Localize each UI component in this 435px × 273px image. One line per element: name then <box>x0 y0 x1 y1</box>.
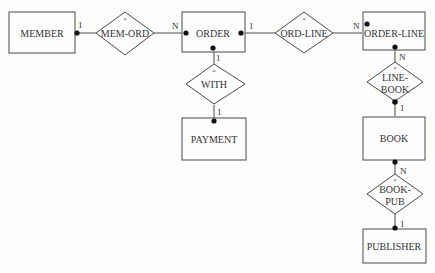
relationship-line-book: * LINE- BOOK <box>367 62 423 101</box>
relationship-ord-line: * ORD-LINE <box>275 12 333 53</box>
relationship-with: * WITH <box>186 64 245 104</box>
card-memord-order: N <box>172 21 179 31</box>
entity-book: BOOK <box>363 117 425 160</box>
card-linebook-book: 1 <box>400 103 405 113</box>
with-label: WITH <box>201 79 227 90</box>
entity-member: MEMBER <box>9 12 75 53</box>
card-member-memord: 1 <box>78 20 83 30</box>
ord-line-label: ORD-LINE <box>280 28 327 39</box>
ord-line-marker: * <box>302 16 306 24</box>
dot-book-bottom <box>392 159 397 164</box>
dot-order-left <box>183 30 188 35</box>
with-marker: * <box>212 68 216 76</box>
entity-payment: PAYMENT <box>182 118 246 160</box>
relationship-mem-ord: * MEM-ORD <box>96 12 154 55</box>
card-ordline-orderline: N <box>353 21 360 31</box>
relationship-book-pub: * BOOK- PUB <box>367 174 423 214</box>
dot-order-right <box>238 30 243 35</box>
card-with-payment: 1 <box>217 107 222 117</box>
line-book-label-2: BOOK <box>381 84 410 95</box>
entity-publisher: PUBLISHER <box>363 229 426 263</box>
line-book-label-1: LINE- <box>382 72 408 83</box>
card-bookpub-publisher: 1 <box>400 219 405 229</box>
dot-orderline-left <box>364 21 369 26</box>
entity-payment-label: PAYMENT <box>191 134 238 145</box>
dot-linebook-bottom <box>392 99 398 105</box>
book-pub-label-1: BOOK- <box>379 184 411 195</box>
entity-order-line: ORDER-LINE <box>363 12 425 50</box>
card-orderline-linebook: N <box>399 52 406 62</box>
book-pub-label-2: PUB <box>385 196 405 207</box>
mem-ord-label: MEM-ORD <box>101 28 149 39</box>
card-order-ordline: 1 <box>249 21 254 31</box>
entity-book-label: BOOK <box>380 133 409 144</box>
er-diagram: MEMBER ORDER ORDER-LINE PAYMENT BOOK PUB… <box>0 0 435 273</box>
dot-order-bottom <box>210 45 215 50</box>
entity-order-label: ORDER <box>196 28 230 39</box>
entity-member-label: MEMBER <box>20 28 64 39</box>
card-book-bookpub: N <box>400 166 407 176</box>
card-order-with: 1 <box>216 53 221 63</box>
entity-order-line-label: ORDER-LINE <box>364 28 424 39</box>
dot-publisher-top <box>392 225 397 230</box>
dot-payment-top <box>211 118 216 123</box>
dot-orderline-bottom <box>392 44 397 49</box>
mem-ord-marker: * <box>123 16 127 24</box>
dot-member-right <box>74 30 79 35</box>
entity-publisher-label: PUBLISHER <box>367 241 422 252</box>
